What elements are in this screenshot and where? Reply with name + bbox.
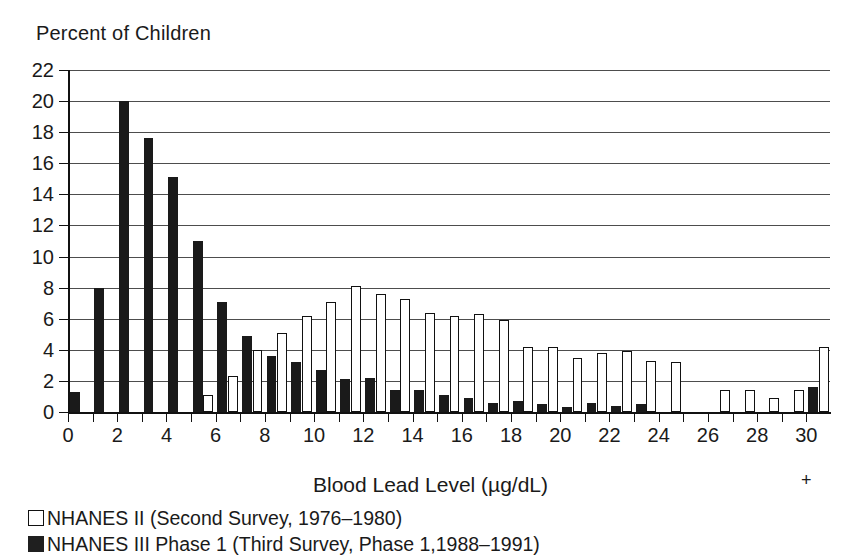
- bar: [144, 138, 154, 412]
- y-tick-mark: [59, 412, 68, 413]
- y-tick-mark: [59, 319, 68, 320]
- bar: [548, 347, 558, 412]
- bars-layer: [68, 70, 831, 412]
- x-tick-mark: [413, 413, 414, 422]
- legend-label: NHANES III Phase 1 (Third Survey, Phase …: [47, 531, 540, 557]
- legend-label: NHANES II (Second Survey, 1976–1980): [47, 505, 402, 531]
- x-tick-label: 6: [196, 424, 236, 447]
- x-tick-mark: [265, 413, 266, 422]
- x-tick-mark: [191, 413, 192, 422]
- bar: [499, 320, 509, 412]
- y-tick-mark: [59, 288, 68, 289]
- bar: [587, 403, 597, 412]
- bar: [450, 316, 460, 412]
- bar: [376, 294, 386, 412]
- bar: [819, 347, 829, 412]
- y-tick-label: 18: [8, 121, 54, 144]
- bar: [636, 404, 646, 412]
- bar: [70, 392, 80, 412]
- bar: [513, 401, 523, 412]
- bar: [277, 333, 287, 412]
- x-tick-mark: [806, 413, 807, 422]
- x-tick-mark: [216, 413, 217, 422]
- bar: [537, 404, 547, 412]
- x-tick-label: 28: [737, 424, 777, 447]
- bar: [365, 378, 375, 412]
- y-tick-label: 14: [8, 183, 54, 206]
- x-tick-label: 24: [639, 424, 679, 447]
- x-tick-mark: [782, 413, 783, 422]
- bar: [523, 347, 533, 412]
- bar: [769, 398, 779, 412]
- x-tick-mark: [634, 413, 635, 422]
- y-tick-label: 4: [8, 338, 54, 361]
- x-tick-mark: [314, 413, 315, 422]
- x-tick-mark: [388, 413, 389, 422]
- x-tick-mark: [142, 413, 143, 422]
- x-tick-mark: [609, 413, 610, 422]
- x-tick-mark: [339, 413, 340, 422]
- y-tick-mark: [59, 350, 68, 351]
- bar: [425, 313, 435, 412]
- plot-wrapper: 0246810121416182022 02468101214161820222…: [0, 0, 861, 440]
- bar: [302, 316, 312, 412]
- y-tick-mark: [59, 225, 68, 226]
- x-tick-mark: [708, 413, 709, 422]
- bar: [573, 358, 583, 412]
- bar: [351, 286, 361, 412]
- bar: [267, 356, 277, 412]
- x-tick-label: 0: [48, 424, 88, 447]
- x-tick-mark: [683, 413, 684, 422]
- y-tick-label: 20: [8, 90, 54, 113]
- bar: [562, 407, 572, 412]
- x-tick-label: 10: [294, 424, 334, 447]
- y-tick-label: 10: [8, 245, 54, 268]
- x-tick-mark: [166, 413, 167, 422]
- bar: [168, 177, 178, 412]
- y-tick-label: 2: [8, 369, 54, 392]
- x-tick-mark: [68, 413, 69, 422]
- blood-lead-level-chart: Percent of Children 0246810121416182022 …: [0, 0, 861, 560]
- y-tick-label: 16: [8, 152, 54, 175]
- bar: [291, 362, 301, 412]
- bar: [597, 353, 607, 412]
- bar: [228, 376, 238, 412]
- bar: [400, 299, 410, 412]
- x-tick-label: 18: [491, 424, 531, 447]
- x-tick-mark: [511, 413, 512, 422]
- x-tick-mark: [560, 413, 561, 422]
- y-tick-mark: [59, 132, 68, 133]
- bar: [646, 361, 656, 412]
- bar: [745, 390, 755, 412]
- x-tick-label: 16: [442, 424, 482, 447]
- legend-item: NHANES II (Second Survey, 1976–1980): [28, 505, 540, 531]
- bar: [253, 350, 263, 412]
- bar: [720, 390, 730, 412]
- bar: [611, 406, 621, 412]
- bar: [474, 314, 484, 412]
- bar: [794, 390, 804, 412]
- x-tick-mark: [757, 413, 758, 422]
- bar: [217, 302, 227, 412]
- chart-legend: NHANES II (Second Survey, 1976–1980)NHAN…: [28, 505, 540, 557]
- bar: [242, 336, 252, 412]
- bar: [439, 395, 449, 412]
- x-tick-mark: [117, 413, 118, 422]
- y-tick-mark: [59, 194, 68, 195]
- y-tick-label: 8: [8, 276, 54, 299]
- x-tick-label: 2: [97, 424, 137, 447]
- x-tick-label: 8: [245, 424, 285, 447]
- bar: [808, 387, 818, 412]
- x-tick-label: 4: [146, 424, 186, 447]
- bar: [203, 395, 213, 412]
- y-tick-label: 6: [8, 307, 54, 330]
- y-tick-label: 22: [8, 59, 54, 82]
- x-tick-mark: [93, 413, 94, 422]
- x-tick-mark: [437, 413, 438, 422]
- bar: [464, 398, 474, 412]
- bar: [414, 390, 424, 412]
- y-tick-mark: [59, 163, 68, 164]
- y-tick-mark: [59, 101, 68, 102]
- x-tick-label: 30: [786, 424, 826, 447]
- x-axis-line: [68, 412, 831, 414]
